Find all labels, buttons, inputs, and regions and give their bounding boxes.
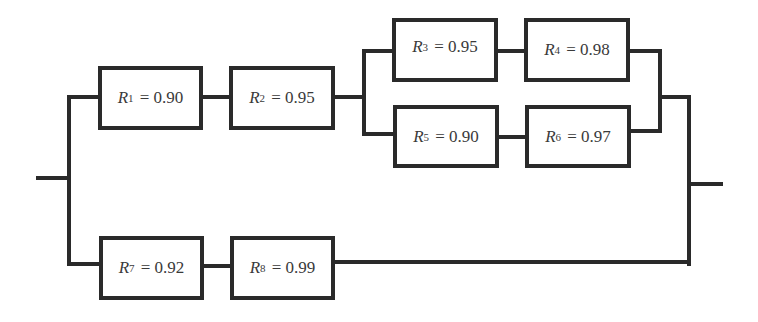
symbol: R xyxy=(412,37,422,57)
label-r7: R7 = 0.92 xyxy=(101,238,202,298)
value: = 0.97 xyxy=(563,127,611,147)
symbol: R xyxy=(118,88,128,108)
label-r2: R2 = 0.95 xyxy=(231,68,333,128)
subscript: 5 xyxy=(424,131,430,143)
symbol: R xyxy=(249,88,259,108)
label-r5: R5 = 0.90 xyxy=(395,107,497,166)
inner-split xyxy=(364,51,394,134)
symbol: R xyxy=(119,258,129,278)
label-r8: R8 = 0.99 xyxy=(232,238,333,298)
value: = 0.90 xyxy=(431,127,479,147)
value: = 0.92 xyxy=(137,258,185,278)
label-r4: R4 = 0.98 xyxy=(526,20,628,80)
symbol: R xyxy=(545,127,555,147)
subscript: 3 xyxy=(423,41,429,53)
subscript: 1 xyxy=(128,92,134,104)
value: = 0.95 xyxy=(267,88,315,108)
subscript: 4 xyxy=(555,44,561,56)
subscript: 2 xyxy=(260,92,266,104)
subscript: 6 xyxy=(556,131,562,143)
label-r1: R1 = 0.90 xyxy=(100,68,201,128)
symbol: R xyxy=(544,40,554,60)
label-r3: R3 = 0.95 xyxy=(394,20,496,74)
inner-merge xyxy=(628,51,660,131)
value: = 0.95 xyxy=(430,37,478,57)
left-split-lower xyxy=(69,178,100,264)
upper-to-output xyxy=(660,97,689,264)
value: = 0.99 xyxy=(268,258,316,278)
subscript: 7 xyxy=(129,262,135,274)
symbol: R xyxy=(250,258,260,278)
label-r6: R6 = 0.97 xyxy=(527,107,629,166)
subscript: 8 xyxy=(260,262,266,274)
left-split-upper xyxy=(69,97,100,178)
value: = 0.90 xyxy=(136,88,184,108)
value: = 0.98 xyxy=(562,40,610,60)
symbol: R xyxy=(413,127,423,147)
